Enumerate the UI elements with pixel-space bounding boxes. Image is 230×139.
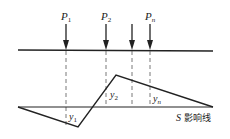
- load-label-p1: P1: [60, 10, 72, 24]
- load-label-pn: Pn: [144, 10, 156, 24]
- ordinate-label-y1: y1: [68, 111, 77, 124]
- load-label-p2: P2: [100, 10, 112, 24]
- influence-line-diagram: P1 P2 Pn y1 y2 yn S影响线: [0, 0, 230, 139]
- load-arrow-p2: [103, 24, 109, 50]
- influence-line-caption: S影响线: [176, 112, 211, 123]
- ordinate-label-yn: yn: [152, 93, 161, 106]
- ordinate-label-y2: y2: [109, 89, 118, 102]
- projection-lines: [66, 51, 150, 125]
- load-arrow-p1: [63, 24, 69, 50]
- beam-line: [18, 50, 213, 51]
- load-arrow-unlabeled: [129, 24, 135, 50]
- load-arrow-pn: [147, 24, 153, 50]
